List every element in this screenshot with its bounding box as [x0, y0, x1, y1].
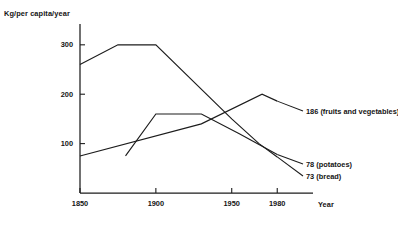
series-leader-2 — [277, 157, 303, 176]
y-tick-label: 300 — [47, 40, 73, 49]
x-tick-label: 1950 — [219, 199, 245, 208]
series-label-fruits-and-vegetables: 186 (fruits and vegetables) — [306, 107, 398, 116]
series-label-potatoes: 78 (potatoes) — [306, 160, 352, 169]
series-leader-0 — [277, 101, 303, 111]
y-tick-label: 100 — [47, 139, 73, 148]
x-tick-label: 1980 — [264, 199, 290, 208]
series-label-bread: 73 (bread) — [306, 172, 341, 181]
line-chart-figure: Kg/per capita/year Year 100200300 185019… — [0, 0, 398, 229]
x-tick-label: 1900 — [143, 199, 169, 208]
series-line-fruits-and-vegetables — [80, 94, 277, 156]
series-line-potatoes — [126, 114, 278, 156]
y-tick-label: 200 — [47, 90, 73, 99]
chart-screenshot: Kg/per capita/year Year 100200300 185019… — [0, 0, 398, 229]
x-tick-label: 1850 — [67, 199, 93, 208]
